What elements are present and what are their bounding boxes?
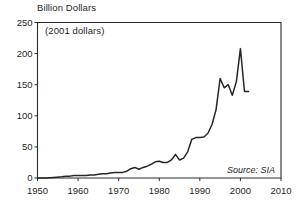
data-series-line xyxy=(38,49,249,178)
axis-frame xyxy=(38,23,282,179)
y-tick-label: 150 xyxy=(17,79,33,90)
x-tick-label: 2000 xyxy=(230,185,251,196)
y-tick-label: 50 xyxy=(22,141,33,152)
plot-area: 050100150200250 195019601970198019902000… xyxy=(0,0,299,207)
x-tick-label: 1980 xyxy=(149,185,170,196)
x-tick-label: 1970 xyxy=(108,185,129,196)
y-tick-label: 200 xyxy=(17,48,33,59)
y-tick-label: 100 xyxy=(17,110,33,121)
x-tick-label: 1960 xyxy=(68,185,89,196)
y-tick-label: 250 xyxy=(17,17,33,28)
axis-tick-marks xyxy=(35,23,282,182)
x-axis-tick-labels: 1950196019701980199020002010 xyxy=(27,185,292,196)
chart-figure: Billion Dollars (2001 dollars) Source: S… xyxy=(0,0,299,207)
x-tick-label: 1990 xyxy=(189,185,210,196)
y-tick-label: 0 xyxy=(27,172,32,183)
x-tick-label: 2010 xyxy=(270,185,291,196)
x-tick-label: 1950 xyxy=(27,185,48,196)
y-axis-tick-labels: 050100150200250 xyxy=(17,17,33,184)
